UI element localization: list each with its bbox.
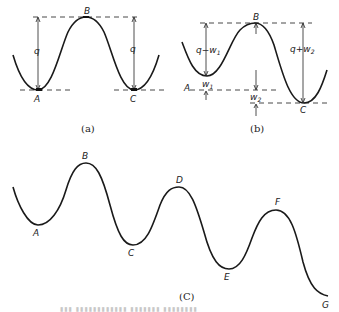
label-q-plus-w2: q+w2 [290,44,315,55]
panel-a: q q A B C (a) [13,6,164,134]
label-point-c: C [130,94,137,104]
label-point-c: C [128,248,135,258]
label-point-b: B [84,6,90,16]
label-point-d: D [176,175,183,185]
label-point-g: G [322,300,329,310]
label-q-minus-w1: q−w1 [196,45,220,56]
label-q-left: q [34,46,40,56]
label-w2: w2 [250,92,261,103]
panel-c: A B C D E F G (C) [13,151,329,310]
caption-c: (C) [179,291,195,302]
label-point-a: A [183,83,190,93]
min-marker-a [36,88,42,91]
panel-b: q−w1 w1 w2 q+w2 A B C (b) [182,12,327,134]
caption-b: (b) [250,123,264,134]
label-point-b: B [253,12,259,22]
label-w1: w1 [202,79,213,90]
max-marker-b [83,16,89,18]
energy-curve-c [13,163,328,296]
label-point-c: C [300,105,307,115]
label-point-a: A [32,228,39,238]
label-point-f: F [275,197,281,207]
potential-energy-diagram: q q A B C (a) q−w1 w1 w2 q+w2 A B C ( [0,0,339,312]
energy-curve-b [182,23,327,103]
figure-caption-cropped: ▮▮▮ ▮▮▮▮▮▮▮▮▮▮▮▮ ▮▮▮▮▮▮▮ ▮▮▮▮▮▮▮▮ [60,305,198,312]
caption-a: (a) [81,123,95,134]
label-q-right: q [130,44,136,54]
label-point-e: E [224,272,230,282]
label-point-a: A [33,94,40,104]
min-marker-c [131,88,137,91]
label-point-b: B [82,151,88,161]
